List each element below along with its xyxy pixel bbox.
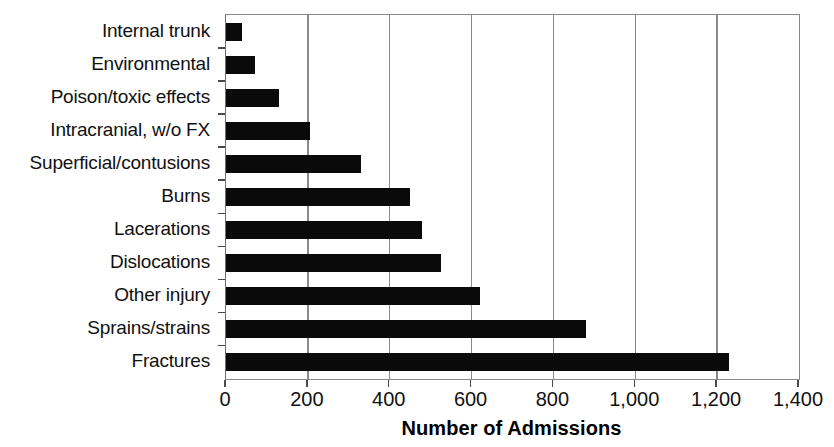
bar: [226, 89, 279, 107]
category-tick-mark: [218, 279, 225, 281]
value-tick-mark: [306, 380, 308, 387]
x-axis-title: Number of Admissions: [225, 417, 798, 439]
bar: [226, 221, 422, 239]
value-tick-mark: [388, 380, 390, 387]
category-tick-mark: [218, 179, 225, 181]
value-tick-mark: [552, 380, 554, 387]
value-tick-label: 600: [454, 389, 487, 409]
category-label: Other injury: [0, 285, 218, 304]
bar: [226, 188, 410, 206]
bar: [226, 254, 441, 272]
value-tick-label: 1,000: [609, 389, 659, 409]
value-tick-label: 400: [372, 389, 405, 409]
bar: [226, 56, 255, 74]
value-tick-label: 0: [219, 389, 230, 409]
gridline: [635, 15, 637, 379]
category-tick-mark: [218, 80, 225, 82]
category-tick-mark: [218, 146, 225, 148]
bar: [226, 287, 480, 305]
category-label: Environmental: [0, 54, 218, 73]
value-tick-mark: [470, 380, 472, 387]
value-tick-label: 800: [536, 389, 569, 409]
bar: [226, 353, 729, 371]
category-label: Intracranial, w/o FX: [0, 120, 218, 139]
category-tick-mark: [218, 345, 225, 347]
value-tick-label: 1,200: [691, 389, 741, 409]
category-tick-mark: [218, 213, 225, 215]
category-label: Sprains/strains: [0, 318, 218, 337]
value-tick-mark: [715, 380, 717, 387]
bar: [226, 122, 310, 140]
category-label: Poison/toxic effects: [0, 87, 218, 106]
category-label: Dislocations: [0, 252, 218, 271]
category-label: Fractures: [0, 351, 218, 370]
category-axis-labels: Internal trunkEnvironmentalPoison/toxic …: [0, 14, 218, 378]
category-label: Lacerations: [0, 219, 218, 238]
bar-chart: Internal trunkEnvironmentalPoison/toxic …: [0, 0, 834, 447]
value-tick-label: 200: [290, 389, 323, 409]
value-tick-mark: [224, 380, 226, 387]
category-label: Burns: [0, 186, 218, 205]
category-tick-mark: [218, 47, 225, 49]
value-tick-label: 1,400: [773, 389, 823, 409]
category-label: Superficial/contusions: [0, 153, 218, 172]
value-tick-mark: [797, 380, 799, 387]
category-tick-mark: [218, 246, 225, 248]
bar: [226, 155, 361, 173]
value-tick-mark: [634, 380, 636, 387]
bar: [226, 320, 586, 338]
gridline: [716, 15, 718, 379]
bar: [226, 23, 242, 41]
category-label: Internal trunk: [0, 21, 218, 40]
category-tick-mark: [218, 113, 225, 115]
category-tick-mark: [218, 312, 225, 314]
plot-area: [225, 14, 800, 380]
